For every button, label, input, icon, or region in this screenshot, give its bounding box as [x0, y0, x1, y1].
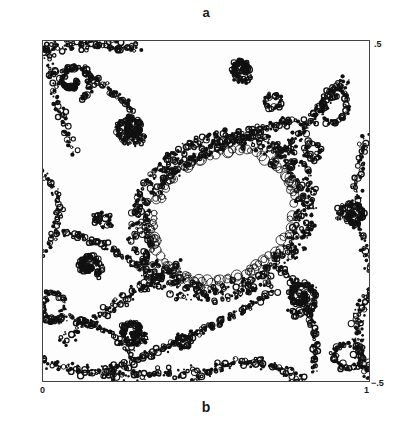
fractal-plot-frame	[42, 40, 370, 382]
fractal-image	[43, 41, 370, 382]
x-tick-right: 1	[364, 386, 369, 395]
y-tick-top: .5	[374, 40, 382, 49]
x-tick-left: 0	[40, 386, 45, 395]
panel-label-a: a	[202, 6, 209, 19]
panel-label-b: b	[202, 400, 211, 414]
y-tick-bottom: −.5	[371, 379, 384, 388]
